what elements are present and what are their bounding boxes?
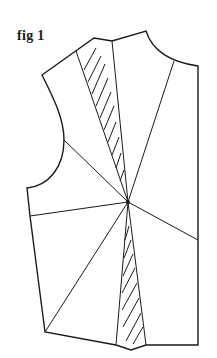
waist-dart-left-leg — [116, 202, 128, 345]
bodice-outline — [27, 31, 198, 350]
shoulder-dart-hatching — [84, 48, 124, 181]
slash-line-hem-left — [45, 202, 128, 332]
slash-line-side-right — [128, 202, 198, 240]
waist-dart-right-leg — [128, 202, 146, 345]
waist-dart-hatching — [122, 226, 143, 344]
slash-line-side-left — [30, 202, 128, 216]
bust-point — [126, 200, 130, 204]
slash-line-armhole — [64, 140, 128, 202]
bodice-pattern-diagram — [0, 0, 217, 358]
slash-line-neck — [128, 61, 174, 202]
